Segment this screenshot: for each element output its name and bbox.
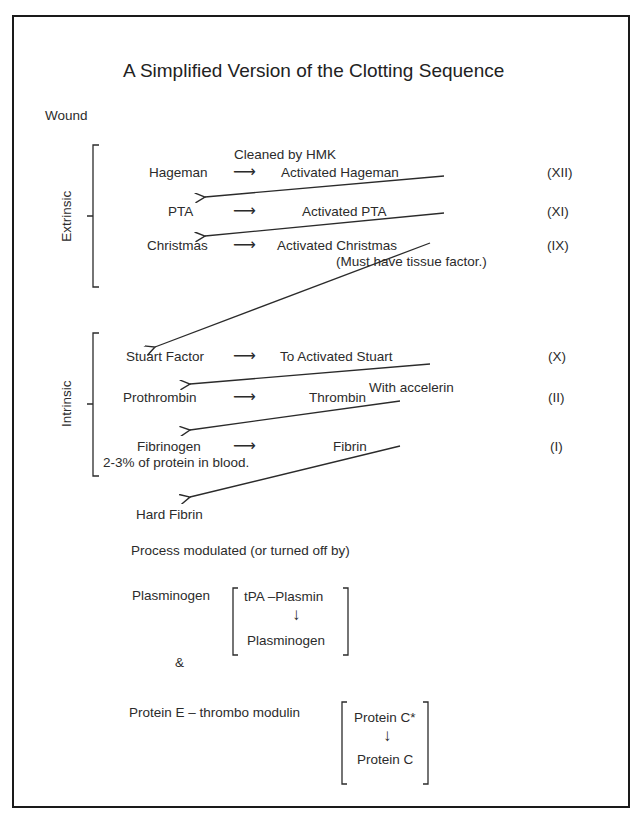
cascade-arrow-stuart-to-prothrombin [190,364,430,384]
diagram-connectors [0,0,643,826]
intrinsic-bracket [87,333,99,476]
protein-bracket-left [342,702,347,784]
cascade-arrow-fibrin-to-hard-fibrin [190,446,400,497]
cascade-arrow-hageman-to-pta [205,176,444,197]
protein-bracket-right [423,702,428,784]
extrinsic-bracket [87,145,99,287]
cascade-arrow-pta-to-christmas [205,213,444,236]
cascade-arrow-christmas-to-stuart [155,243,430,347]
cascade-arrow-thrombin-to-fibrinogen [190,401,400,430]
plasminogen-bracket-right [343,588,348,655]
plasminogen-bracket-left [233,588,238,655]
